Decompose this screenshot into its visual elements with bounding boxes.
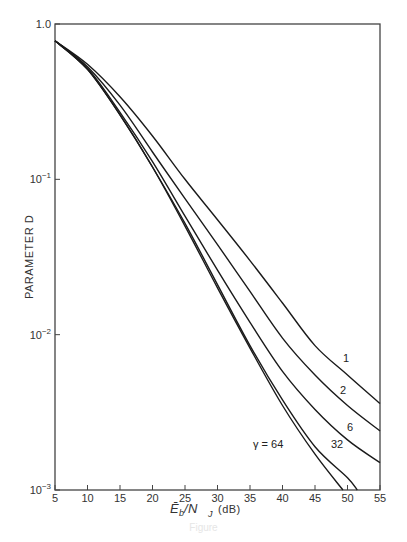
chart: 510152025303540455055 1.010−110−210−3 12… (0, 0, 407, 542)
curve-label-64: γ = 64 (253, 438, 283, 450)
svg-text:J: J (207, 509, 213, 519)
x-tick-label: 20 (146, 492, 158, 504)
x-tick-label: 45 (309, 492, 321, 504)
curve-label-6: 6 (347, 421, 353, 433)
x-tick-label: 15 (114, 492, 126, 504)
curve-gamma-6 (55, 41, 380, 463)
curve-gamma-64 (55, 41, 343, 490)
plot-border (55, 24, 380, 490)
svg-text:/N: /N (183, 501, 198, 516)
plot-frame (55, 24, 380, 490)
curves (55, 41, 380, 490)
curve-gamma-1 (55, 41, 380, 404)
x-axis-ticks: 510152025303540455055 (52, 485, 386, 504)
curve-gamma-2 (55, 41, 380, 431)
y-tick-label: 10−3 (30, 482, 52, 496)
curve-label-32: 32 (331, 438, 343, 450)
x-tick-label: 5 (52, 492, 58, 504)
y-axis-title: PARAMETER D (23, 215, 35, 299)
x-tick-label: 40 (276, 492, 288, 504)
curve-label-1: 1 (343, 352, 349, 364)
x-tick-label: 55 (374, 492, 386, 504)
x-tick-label: 50 (341, 492, 353, 504)
x-tick-label: 10 (81, 492, 93, 504)
svg-text:Ē: Ē (170, 501, 179, 516)
figure-caption: Figure (0, 522, 407, 533)
y-tick-label: 1.0 (36, 18, 51, 30)
curve-label-2: 2 (340, 384, 346, 396)
x-tick-label: 35 (244, 492, 256, 504)
y-tick-label: 10−2 (30, 327, 52, 341)
y-tick-label: 10−1 (30, 171, 52, 185)
svg-text:(dB): (dB) (218, 503, 241, 515)
